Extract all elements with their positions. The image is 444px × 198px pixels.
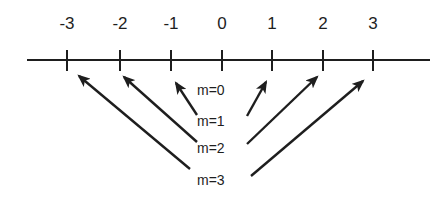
number-line-diagram: -3 -2 -1 0 1 2 3 m=0 m=1 m=2 m=3 (0, 0, 444, 198)
label-m-2: m=2 (197, 140, 239, 156)
tick-label-minus-3: -3 (47, 14, 87, 34)
tick-label-1: 1 (252, 14, 292, 34)
tick-label-2: 2 (303, 14, 343, 34)
arrow-m2-to-2 (247, 77, 317, 144)
tick-label-0: 0 (202, 14, 242, 34)
tick-label-minus-1: -1 (151, 14, 191, 34)
arrow-m3-to-3 (251, 81, 363, 176)
label-m-0: m=0 (197, 82, 239, 98)
tick-label-3: 3 (353, 14, 393, 34)
label-m-1: m=1 (197, 113, 239, 129)
tick-label-minus-2: -2 (100, 14, 140, 34)
arrow-m1-to-1 (247, 82, 266, 116)
label-m-3: m=3 (197, 172, 239, 188)
arrow-m2-to-minus-2 (124, 77, 197, 142)
arrow-m1-to-minus-1 (176, 83, 197, 115)
